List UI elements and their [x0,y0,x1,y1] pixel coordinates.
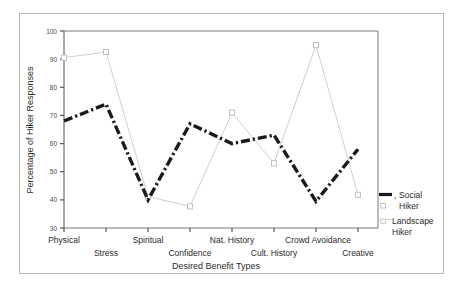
y-tick-label-80: 80 [50,84,58,91]
axes [64,31,378,228]
x-label-crowd-avoidance: Crowd Avoidance [285,235,351,245]
legend-label-landscape-hiker-line1[interactable]: Landscape [392,216,434,226]
y-tick-label-90: 90 [50,56,58,63]
chart-canvas: 100 90 80 70 60 50 40 30 Physical Stress… [0,0,466,291]
legend-label-landscape-hiker-line2[interactable]: Hiker [392,227,412,237]
series-social-hiker [64,104,358,201]
x-label-cult-history: Cult. History [251,248,298,258]
x-label-physical: Physical [48,235,80,245]
y-tick-label-40: 40 [50,196,58,203]
y-tick-label-50: 50 [50,168,58,175]
x-axis-title: Desired Benefit Types [172,261,260,271]
y-axis-tick-labels: 100 90 80 70 60 50 40 30 [46,28,57,232]
legend: , Social Hiker Landscape Hiker [379,190,434,238]
legend-marker-landscape-hiker [381,219,386,224]
y-tick-label-100: 100 [46,28,57,35]
legend-label-social-hiker-line1[interactable]: Social [399,190,422,200]
x-label-creative: Creative [342,248,374,258]
y-tick-label-60: 60 [50,140,58,147]
legend-marker-social-hiker [381,203,386,208]
legend-separator: , [394,190,396,200]
x-label-nat-history: Nat. History [210,235,255,245]
x-label-spiritual: Spiritual [133,235,164,245]
landscape-point-crowd-avoidance [313,43,318,48]
landscape-point-confidence [187,204,192,209]
landscape-point-cult-history [271,161,276,166]
y-tick-label-70: 70 [50,112,58,119]
x-label-confidence: Confidence [168,248,211,258]
x-axis-ticks [64,228,358,232]
y-axis-title: Percentage of Hiker Responses [25,66,35,194]
x-label-stress: Stress [94,248,118,258]
landscape-hiker-line [64,45,358,206]
figure-container: 100 90 80 70 60 50 40 30 Physical Stress… [0,0,466,291]
social-hiker-line [64,104,358,201]
landscape-point-creative [355,192,360,197]
landscape-point-stress [103,49,108,54]
landscape-point-physical [61,55,66,60]
landscape-point-nat-history [229,110,234,115]
y-tick-label-30: 30 [50,225,58,232]
x-axis-category-labels: Physical Stress Spiritual Confidence Nat… [48,235,374,258]
legend-label-social-hiker-line2[interactable]: Hiker [399,201,419,211]
series-landscape-hiker [61,43,360,210]
